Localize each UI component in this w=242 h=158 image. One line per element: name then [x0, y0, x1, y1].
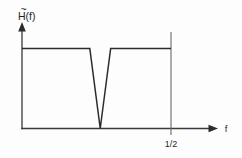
frequency-response-curve [22, 49, 171, 129]
figure-container: ~ H(f) f 1/2 [0, 0, 242, 158]
notch-filter-response-chart: ~ H(f) f 1/2 [0, 0, 242, 158]
x-axis-label: f [225, 123, 228, 134]
y-axis-arrow-icon [18, 22, 26, 32]
x-axis-arrow-icon [209, 125, 219, 133]
x-tick-label-half: 1/2 [165, 139, 178, 149]
y-axis-label: H(f) [18, 10, 36, 22]
